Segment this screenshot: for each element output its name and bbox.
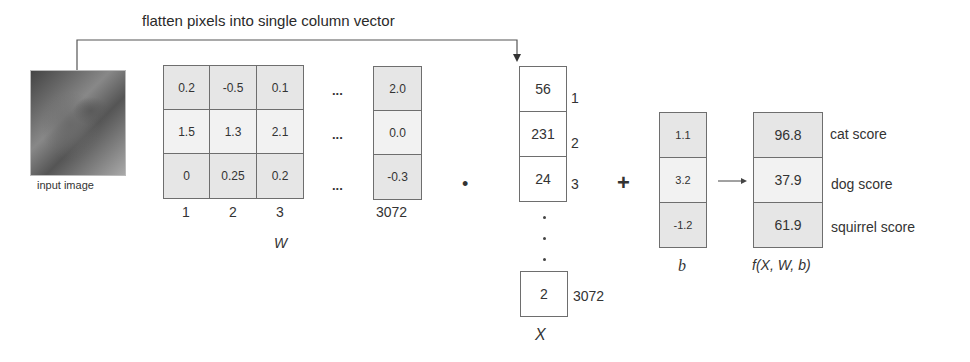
pixel-cell: 2 [520, 271, 568, 317]
weights-symbol: W [274, 235, 287, 251]
pixel-cell: 24 [519, 156, 567, 202]
weight-cell: 1.3 [209, 109, 257, 154]
bias-cell: -1.2 [659, 202, 707, 248]
score-cell: 96.8 [753, 112, 823, 158]
ellipsis: ... [332, 178, 343, 193]
dot-operator: • [462, 174, 468, 195]
vertical-ellipsis-dot [543, 216, 546, 219]
score-label-dog: dog score [831, 176, 892, 192]
vertical-ellipsis-dot [543, 237, 546, 240]
column-index: 3072 [376, 204, 407, 220]
bias-cell: 3.2 [659, 157, 707, 203]
pixels-symbol: X [535, 326, 546, 344]
pixel-cell: 231 [519, 111, 567, 157]
weight-cell: 0.2 [256, 153, 304, 199]
plus-operator: + [617, 170, 630, 196]
pixel-index: 3 [571, 176, 579, 192]
column-index: 1 [182, 204, 190, 220]
weight-cell: 0.2 [163, 65, 210, 110]
pixel-cell: 56 [519, 66, 567, 112]
cat-image-icon [30, 70, 126, 176]
pixel-index: 1 [571, 90, 579, 106]
score-cell: 37.9 [753, 157, 823, 203]
flatten-connector-arrow [0, 0, 970, 362]
weight-cell: 0 [163, 153, 210, 199]
bias-symbol: b [678, 257, 686, 275]
pixel-index: 2 [571, 135, 579, 151]
weight-cell: -0.3 [373, 154, 422, 200]
weight-cell: 1.5 [163, 109, 210, 154]
weight-cell: 2.1 [256, 109, 304, 154]
weight-cell: 0.0 [373, 110, 422, 155]
column-index: 2 [229, 204, 237, 220]
weight-cell: -0.5 [209, 65, 257, 110]
bias-cell: 1.1 [659, 112, 707, 158]
score-label-squirrel: squirrel score [831, 219, 915, 235]
ellipsis: ... [332, 83, 343, 98]
score-cell: 61.9 [753, 202, 823, 248]
pixel-index: 3072 [573, 288, 604, 304]
vertical-ellipsis-dot [543, 258, 546, 261]
weight-cell: 2.0 [373, 66, 422, 111]
weight-cell: 0.25 [209, 153, 257, 199]
ellipsis: ... [332, 127, 343, 142]
output-symbol: f(X, W, b) [752, 257, 811, 273]
column-index: 3 [276, 204, 284, 220]
input-image-label: input image [37, 179, 94, 191]
weight-cell: 0.1 [256, 65, 304, 110]
score-label-cat: cat score [830, 126, 887, 142]
